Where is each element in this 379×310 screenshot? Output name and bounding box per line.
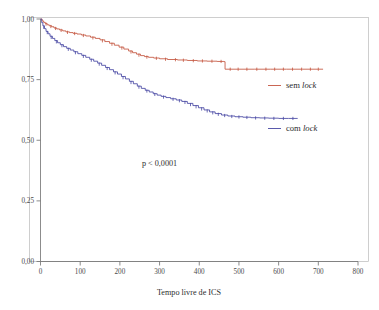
figure-background — [0, 0, 379, 310]
legend-item-label: com lock — [286, 123, 317, 133]
legend-item-label: sem lock — [286, 80, 316, 90]
x-tick-label: 100 — [75, 268, 86, 276]
x-tick-label: 700 — [313, 268, 324, 276]
x-axis-title: Tempo livre de ICS — [157, 288, 222, 297]
y-tick-label: 0,75 — [21, 76, 34, 84]
y-tick-label: 0,25 — [21, 197, 34, 205]
x-tick-label: 400 — [194, 268, 205, 276]
y-tick-label: 0,50 — [21, 137, 34, 145]
x-tick-label: 500 — [234, 268, 245, 276]
x-tick-label: 200 — [114, 268, 125, 276]
x-tick-label: 0 — [39, 268, 43, 276]
survival-chart-figure: 0,000,250,500,751,00 0100200300400500600… — [0, 0, 379, 310]
survival-plot-svg: 0,000,250,500,751,00 0100200300400500600… — [0, 0, 379, 310]
p-value-annotation: p < 0,0001 — [142, 159, 177, 168]
y-tick-label: 0,00 — [21, 258, 34, 266]
x-tick-label: 300 — [154, 268, 165, 276]
y-tick-label: 1,00 — [21, 16, 34, 24]
x-tick-label: 800 — [353, 268, 364, 276]
x-tick-label: 600 — [273, 268, 284, 276]
